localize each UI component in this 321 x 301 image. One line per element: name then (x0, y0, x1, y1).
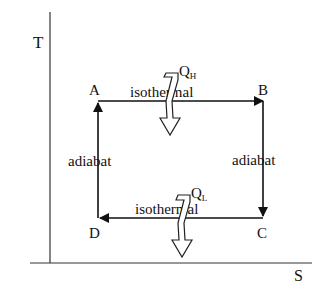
carnot-ts-diagram: T S A B C D isothermal isothermal adiaba… (0, 0, 321, 301)
left-adiabat-label: adiabat (68, 153, 112, 169)
state-d-label: D (89, 225, 100, 241)
state-b-label: B (258, 82, 268, 98)
top-isothermal-label: isothermal (130, 84, 193, 100)
state-c-label: C (257, 225, 267, 241)
t-axis-label: T (33, 33, 44, 52)
q-hot-subscript: H (190, 71, 197, 81)
right-adiabat-label: adiabat (232, 152, 276, 168)
q-cold-label: QL (191, 185, 207, 203)
q-cold-subscript: L (202, 193, 208, 203)
q-hot-label: QH (179, 63, 197, 81)
s-axis-label: S (294, 267, 303, 284)
state-a-label: A (89, 82, 100, 98)
heat-in-arrow-icon (160, 73, 180, 135)
